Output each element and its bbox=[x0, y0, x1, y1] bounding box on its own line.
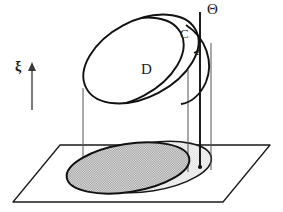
label-curve-c: C bbox=[180, 27, 189, 40]
label-set-theta: Θ bbox=[207, 2, 218, 17]
label-point-a: a bbox=[196, 46, 201, 57]
xi-axis-arrowhead bbox=[28, 62, 36, 71]
figure-container: D C a Θ ξ bbox=[0, 0, 283, 212]
point-a-marker bbox=[198, 165, 202, 169]
label-axis-xi: ξ bbox=[15, 60, 21, 74]
label-domain-d: D bbox=[141, 62, 152, 77]
diagram-canvas bbox=[0, 0, 283, 212]
